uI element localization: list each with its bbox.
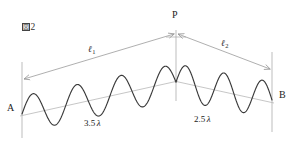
right-wavelength-unit: λ [207, 114, 211, 124]
label-left-wavelength-count: 3.5λ [84, 119, 101, 128]
wave-curve-left [22, 66, 176, 125]
wave-interference-figure: 図2 P A B ℓ1 ℓ2 3.5λ 2.5λ [0, 0, 295, 145]
label-right-wavelength-count: 2.5λ [194, 115, 211, 124]
left-wavelength-value: 3.5 [84, 118, 95, 128]
wave-curve-right [176, 66, 272, 113]
label-path-length-1: ℓ1 [88, 45, 95, 54]
right-baseline-guide [174, 81, 274, 103]
figure-caption-kanji-glyph: 図 [22, 23, 30, 31]
label-point-p: P [172, 10, 178, 20]
left-wavelength-unit: λ [97, 118, 101, 128]
label-path-length-2: ℓ2 [221, 39, 228, 48]
path-1-subscript: 1 [92, 48, 95, 55]
figure-canvas [0, 0, 295, 145]
path-2-subscript: 2 [225, 42, 228, 49]
label-point-b: B [279, 90, 286, 100]
right-wavelength-value: 2.5 [194, 114, 205, 124]
left-path-dimension-arrow [24, 34, 174, 79]
figure-caption: 図2 [22, 22, 35, 33]
label-point-a: A [7, 103, 14, 113]
figure-caption-number: 2 [31, 22, 36, 32]
